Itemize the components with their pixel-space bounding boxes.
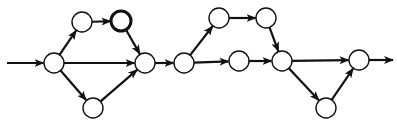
node-n4: [83, 98, 103, 118]
edge-arrow-n6-n9: [194, 61, 229, 62]
flow-graph-diagram: [0, 0, 397, 124]
edge-arrow-n4-n5: [101, 70, 137, 102]
edge-arrow-n8-n10: [269, 27, 278, 51]
highlighted-node-n3: [111, 11, 131, 31]
node-n5: [135, 53, 155, 73]
node-n11: [316, 98, 336, 118]
edge-arrow-n11-n12: [332, 69, 353, 100]
edge-arrow-n1-n4: [61, 71, 87, 101]
edge-arrow-n10-n11: [289, 68, 319, 100]
node-n9: [229, 51, 249, 71]
edge-arrow-n1-n2: [60, 31, 76, 55]
node-n12: [349, 50, 369, 70]
edges-layer: [7, 18, 393, 101]
edge-arrow-n6-n7: [190, 26, 212, 55]
edge-arrow-n3-n5: [126, 30, 140, 54]
node-n8: [256, 8, 276, 28]
edge-arrow-n10-n12: [292, 60, 349, 61]
node-n1: [44, 53, 64, 73]
node-n7: [209, 8, 229, 28]
node-n6: [174, 53, 194, 73]
node-n2: [72, 12, 92, 32]
node-n10: [272, 51, 292, 71]
